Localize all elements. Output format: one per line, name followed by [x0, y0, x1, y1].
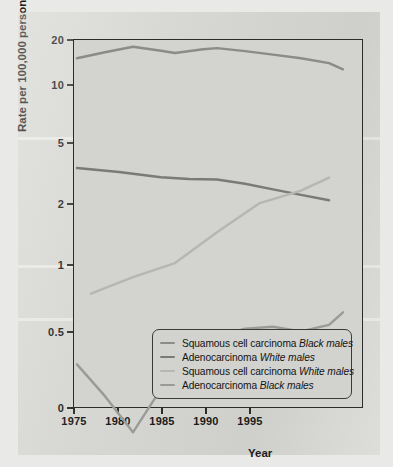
figure-page: Rate per 100,000 person years 20 10 5 2 … [0, 0, 393, 467]
y-axis-title: Rate per 100,000 person years [16, 0, 28, 132]
x-axis-title: Year [248, 447, 272, 459]
chart-legend[interactable]: Squamous cell carcinoma Black males Aden… [152, 329, 352, 399]
x-tick-mark [249, 408, 251, 414]
y-tick-label-0: 0 [28, 402, 64, 414]
x-tick-mark [73, 408, 75, 414]
y-tick-label-0-5: 0.5 [22, 326, 64, 338]
series-line [91, 178, 329, 294]
series-line [77, 47, 343, 70]
legend-label-adeno-black: Adenocarcinoma Black males [182, 380, 314, 391]
legend-item[interactable]: Adenocarcinoma White males [160, 350, 343, 364]
x-tick-mark [205, 408, 207, 414]
legend-swatch-squamous-black [160, 342, 175, 345]
y-tick-label-1: 1 [28, 259, 64, 271]
x-tick-label-1990: 1990 [183, 415, 229, 427]
legend-label-squamous-black: Squamous cell carcinoma Black males [182, 338, 353, 349]
legend-swatch-adeno-black [160, 384, 175, 387]
y-tick-label-2: 2 [28, 198, 64, 210]
series-line [77, 168, 329, 200]
x-tick-label-1975: 1975 [51, 415, 97, 427]
x-tick-label-1995: 1995 [227, 415, 273, 427]
legend-label-adeno-white: Adenocarcinoma White males [182, 352, 315, 363]
y-tick-label-5: 5 [28, 137, 64, 149]
legend-swatch-adeno-white [160, 356, 175, 359]
y-tick-label-10: 10 [28, 79, 64, 91]
legend-swatch-squamous-white [160, 370, 175, 373]
legend-item[interactable]: Adenocarcinoma Black males [160, 378, 343, 392]
x-tick-mark [161, 408, 163, 414]
legend-item[interactable]: Squamous cell carcinoma Black males [160, 336, 343, 350]
x-tick-label-1985: 1985 [139, 415, 185, 427]
x-tick-label-1980: 1980 [95, 415, 141, 427]
legend-label-squamous-white: Squamous cell carcinoma White males [182, 366, 354, 377]
legend-item[interactable]: Squamous cell carcinoma White males [160, 364, 343, 378]
y-tick-label-20: 20 [28, 34, 64, 46]
